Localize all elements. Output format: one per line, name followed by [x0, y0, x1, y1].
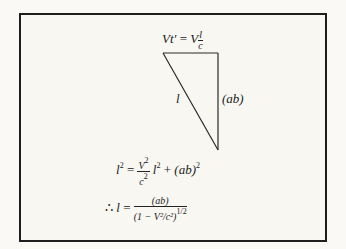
- hypotenuse: [163, 53, 218, 150]
- equation-1: l2 = V2c2 l2 + (ab)2: [116, 156, 200, 187]
- top-label: Vt′ = Vlc: [162, 30, 203, 51]
- equation-2: ∴ l = (ab)(1 − V²/c²)1/2: [105, 196, 187, 222]
- side-label: (ab): [222, 91, 244, 107]
- hypotenuse-label: l: [176, 91, 180, 107]
